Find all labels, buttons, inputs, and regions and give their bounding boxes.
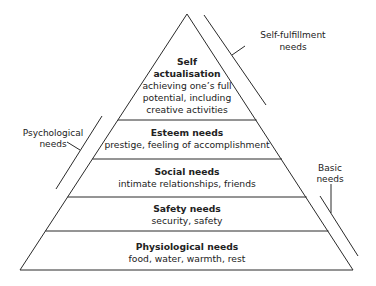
level-description: security, safety — [152, 215, 223, 226]
level-description: potential, including — [143, 92, 232, 103]
level-title: Physiological needs — [136, 241, 239, 252]
group-label: needs — [316, 174, 343, 184]
level-safety: Safety needs security, safety — [152, 203, 223, 226]
level-title: Self — [177, 56, 198, 67]
group-label: needs — [279, 42, 306, 52]
level-description: prestige, feeling of accomplishment — [104, 139, 270, 150]
level-description: food, water, warmth, rest — [129, 253, 246, 264]
group-label: Psychological — [23, 128, 84, 138]
level-title: Social needs — [154, 166, 220, 177]
leader-line — [232, 46, 245, 55]
level-self-actualisation: Self actualisation achieving one’s full … — [142, 56, 231, 115]
level-esteem: Esteem needs prestige, feeling of accomp… — [104, 127, 270, 150]
maslow-hierarchy-diagram: Self actualisation achieving one’s full … — [0, 0, 376, 286]
level-social: Social needs intimate relationships, fri… — [118, 166, 256, 189]
bracket-line — [320, 196, 358, 256]
leader-line — [67, 142, 80, 150]
level-description: achieving one’s full — [142, 80, 231, 91]
group-label: Self-fulfillment — [260, 30, 326, 40]
group-basic: Basic needs — [316, 163, 358, 256]
level-description: intimate relationships, friends — [118, 178, 256, 189]
level-title: Esteem needs — [151, 127, 224, 138]
group-psychological: Psychological needs — [23, 116, 102, 189]
group-label: Basic — [318, 163, 342, 173]
bracket-line — [56, 116, 102, 189]
level-physiological: Physiological needs food, water, warmth,… — [129, 241, 246, 264]
group-label: needs — [39, 139, 66, 149]
level-title: actualisation — [153, 68, 220, 79]
level-description: creative activities — [146, 104, 228, 115]
level-title: Safety needs — [153, 203, 221, 214]
